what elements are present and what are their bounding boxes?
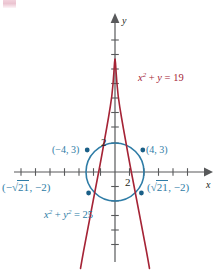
y-axis-label: y bbox=[122, 16, 126, 26]
point-sqrt21-minus2 bbox=[139, 191, 144, 196]
x-axis-label: x bbox=[206, 180, 210, 190]
point-label-lower-left: (−√21, −2) bbox=[2, 182, 50, 193]
point-label-upper-right: (4, 3) bbox=[146, 145, 168, 155]
y-tick-label-2: 2 bbox=[101, 137, 107, 148]
circle-equation-label: x2 + y2 = 25 bbox=[44, 210, 93, 221]
x-axis-arrowhead bbox=[204, 168, 213, 177]
point-label-upper-left: (−4, 3) bbox=[52, 145, 79, 155]
parabola-equation-label: x2 + y = 19 bbox=[138, 73, 184, 84]
coordinate-plot bbox=[0, 0, 222, 271]
point-label-lower-right: (√21, −2) bbox=[147, 182, 189, 193]
point-minus-sqrt21-minus2 bbox=[86, 191, 91, 196]
y-axis-arrowhead bbox=[111, 13, 120, 23]
point-minus4-3 bbox=[85, 148, 90, 153]
x-tick-label-2: 2 bbox=[125, 177, 131, 188]
point-4-3 bbox=[140, 148, 145, 153]
graph-figure: x y 2 2 x2 + y = 19 x2 + y2 = 25 (−4, 3)… bbox=[0, 0, 222, 271]
